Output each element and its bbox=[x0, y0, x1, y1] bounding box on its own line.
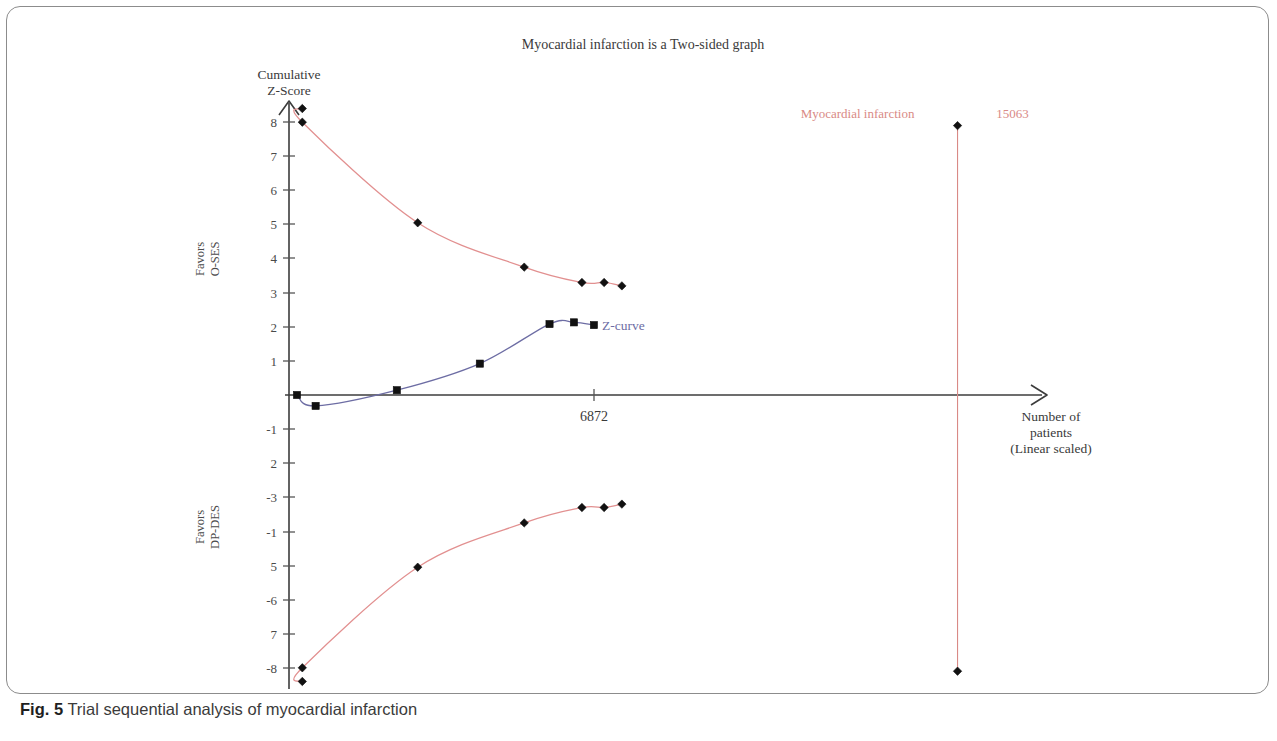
y-axis-label-line1: Cumulative bbox=[258, 67, 321, 82]
data-point-marker bbox=[618, 282, 626, 290]
chart-title: Myocardial infarction is a Two-sided gra… bbox=[522, 37, 765, 52]
y-tick-label: 2 bbox=[271, 320, 278, 335]
data-point-marker bbox=[476, 360, 483, 367]
y-tick-label: 7 bbox=[271, 149, 278, 164]
series-diamond-0 bbox=[294, 104, 626, 290]
zcurve-label: Z-curve bbox=[602, 318, 645, 333]
trial-sequential-analysis-chart: Myocardial infarction is a Two-sided gra… bbox=[7, 7, 1270, 695]
y-axis-label-line2: Z-Score bbox=[267, 83, 310, 98]
y-tick-label: 6 bbox=[271, 183, 278, 198]
data-point-marker bbox=[298, 104, 306, 112]
y-tick-label: 2 bbox=[271, 456, 278, 471]
data-point-marker bbox=[953, 121, 961, 129]
favors-lower-label: Favors DP-DES bbox=[193, 505, 222, 549]
y-tick-label: -6 bbox=[266, 593, 277, 608]
figure-caption-label: Fig. 5 bbox=[20, 700, 63, 718]
figure-caption: Fig. 5 Trial sequential analysis of myoc… bbox=[20, 700, 1260, 719]
y-axis-ticks-negative: -1 2 -3 -1 5 -6 7 -8 bbox=[266, 422, 295, 676]
data-point-marker bbox=[600, 503, 608, 511]
x-axis-label: Number of patients (Linear scaled) bbox=[1010, 409, 1091, 456]
y-tick-label: -8 bbox=[266, 661, 277, 676]
series-line bbox=[297, 320, 594, 406]
data-point-marker bbox=[546, 320, 553, 327]
series-line bbox=[294, 504, 622, 681]
figure-caption-text: Trial sequential analysis of myocardial … bbox=[67, 700, 417, 718]
ris-label: Myocardial infarction bbox=[801, 106, 915, 121]
y-axis-ticks-positive: 8 7 6 5 4 3 2 1 bbox=[271, 115, 296, 369]
annotation-layer: Myocardial infarction15063 bbox=[801, 106, 1029, 676]
data-point-marker bbox=[393, 387, 400, 394]
data-point-marker bbox=[953, 667, 961, 675]
figure-frame: Myocardial infarction is a Two-sided gra… bbox=[6, 6, 1269, 694]
data-point-marker bbox=[590, 321, 597, 328]
data-point-marker bbox=[578, 503, 586, 511]
x-axis-label-line2: patients bbox=[1030, 425, 1072, 440]
series-diamond-1 bbox=[294, 500, 626, 686]
y-tick-label: 3 bbox=[271, 286, 278, 301]
x-tick-label: 6872 bbox=[580, 409, 608, 424]
data-point-marker bbox=[414, 563, 422, 571]
favors-upper-line2: O-SES bbox=[208, 242, 222, 277]
y-tick-label: 8 bbox=[271, 115, 278, 130]
y-tick-label: 7 bbox=[271, 627, 278, 642]
x-axis-label-line3: (Linear scaled) bbox=[1010, 441, 1091, 456]
y-tick-label: -3 bbox=[266, 490, 277, 505]
ris-value: 15063 bbox=[996, 106, 1029, 121]
favors-lower-line1: Favors bbox=[193, 510, 207, 544]
data-point-marker bbox=[520, 263, 528, 271]
y-tick-label: -1 bbox=[266, 422, 277, 437]
data-point-marker bbox=[578, 278, 586, 286]
y-tick-label: 4 bbox=[271, 251, 278, 266]
x-axis-label-line1: Number of bbox=[1022, 409, 1081, 424]
y-tick-label: 5 bbox=[271, 217, 278, 232]
series-line bbox=[294, 109, 622, 286]
data-point-marker bbox=[600, 278, 608, 286]
data-point-marker bbox=[618, 500, 626, 508]
data-point-marker bbox=[414, 219, 422, 227]
favors-lower-line2: DP-DES bbox=[208, 505, 222, 549]
data-point-marker bbox=[312, 402, 319, 409]
data-point-marker bbox=[570, 319, 577, 326]
required-information-size: Myocardial infarction15063 bbox=[801, 106, 1029, 676]
y-tick-label: 5 bbox=[271, 559, 278, 574]
y-tick-label: 1 bbox=[271, 354, 278, 369]
favors-upper-line1: Favors bbox=[193, 242, 207, 276]
y-tick-label: -1 bbox=[266, 525, 277, 540]
favors-upper-label: Favors O-SES bbox=[193, 242, 222, 277]
data-point-marker bbox=[520, 519, 528, 527]
data-point-marker bbox=[293, 391, 300, 398]
data-point-marker bbox=[298, 677, 306, 685]
